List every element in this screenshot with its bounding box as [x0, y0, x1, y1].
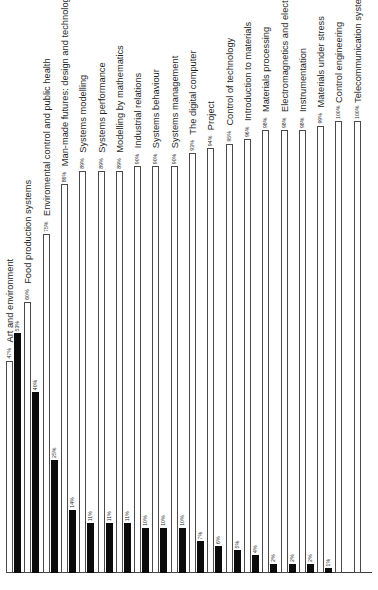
category-label: Industrial relations	[133, 73, 143, 148]
bar-black	[106, 523, 113, 573]
category-label: Art and environment	[5, 259, 15, 343]
bar-value-label-white: 89%	[98, 158, 105, 168]
bar-white	[24, 302, 31, 573]
category-label: The digital computer	[188, 50, 198, 134]
bar-value-label-black: 10%	[160, 515, 167, 525]
bar-value-label-black: 2%	[307, 554, 314, 562]
bar-black	[160, 528, 167, 573]
bar-white	[262, 130, 269, 573]
bar-value-label-white: 89%	[116, 158, 123, 168]
bar-value-label-white: 47%	[6, 348, 13, 358]
category-label: Systems management	[170, 56, 180, 149]
bar-white	[152, 166, 159, 573]
bar-value-label-white: 90%	[134, 154, 141, 164]
bar-value-label-white: 93%	[189, 140, 196, 150]
bar-value-label-white: 99%	[317, 113, 324, 123]
bar-value-label-white: 60%	[24, 289, 31, 299]
bar-value-label-black: 6%	[215, 536, 222, 544]
bar-white	[98, 171, 105, 573]
bar-white	[61, 184, 68, 573]
bar-black	[142, 528, 149, 573]
bar-value-label-white: 96%	[244, 127, 251, 137]
bar-black	[252, 555, 259, 573]
bar-black	[325, 568, 332, 573]
bar-white	[244, 139, 251, 573]
bar-white	[134, 166, 141, 573]
category-label: Control engineering	[334, 22, 344, 103]
bar-value-label-black: 11%	[124, 511, 131, 521]
bar-white	[335, 121, 342, 573]
bar-white	[116, 171, 123, 573]
bar-black	[234, 550, 241, 573]
bar-value-label-white: 75%	[43, 222, 50, 232]
bar-value-label-black: 4%	[252, 545, 259, 553]
bar-black	[289, 564, 296, 573]
bar-black	[179, 528, 186, 573]
category-label: Control of technology	[225, 38, 235, 126]
bar-black	[124, 523, 131, 573]
bar-black	[87, 523, 94, 573]
bar-white	[317, 126, 324, 573]
category-label: Food production systems	[23, 180, 33, 284]
bar-value-label-black: 14%	[69, 497, 76, 507]
category-label: Introduction to materials	[243, 22, 253, 121]
bar-value-label-white: 86%	[61, 172, 68, 182]
bar-white	[299, 130, 306, 573]
chart-plot-area: 47%53%Art and environment60%40%Food prod…	[0, 0, 378, 590]
bar-value-label-black: 25%	[51, 448, 58, 458]
bar-value-label-black: 7%	[197, 532, 204, 540]
bar-white	[79, 171, 86, 573]
bar-value-label-black: 2%	[289, 554, 296, 562]
bar-white	[189, 153, 196, 573]
category-label: Instrumentation	[298, 48, 308, 112]
bar-black	[270, 564, 277, 573]
bar-black	[307, 564, 314, 573]
bar-value-label-white: 90%	[171, 154, 178, 164]
category-label: Modelling by mathematics	[115, 45, 125, 152]
category-label: Project	[206, 101, 216, 130]
bar-white	[281, 130, 288, 573]
bar-black	[14, 333, 21, 573]
bar-black	[69, 510, 76, 573]
bar-value-label-white: 90%	[152, 154, 159, 164]
bar-white	[171, 166, 178, 573]
bar-value-label-black: 53%	[14, 321, 21, 331]
chart-figure: 47%53%Art and environment60%40%Food prod…	[0, 0, 378, 590]
bar-value-label-white: 100%	[335, 106, 342, 119]
category-label: Electromagnetics and electronics	[280, 0, 290, 112]
bar-value-label-black: 5%	[234, 541, 241, 549]
bar-value-label-black: 11%	[87, 511, 94, 521]
bar-white	[207, 148, 214, 573]
bar-value-label-white: 98%	[299, 118, 306, 128]
bar-black	[32, 392, 39, 573]
category-label: Telecommunication systems	[353, 0, 363, 103]
bar-value-label-white: 94%	[207, 136, 214, 146]
bar-black	[215, 546, 222, 573]
bar-value-label-white: 100%	[354, 106, 361, 119]
bar-value-label-black: 1%	[325, 559, 332, 567]
bar-value-label-black: 11%	[106, 511, 113, 521]
category-label: Enviromental control and public health	[42, 58, 52, 216]
bar-white	[354, 121, 361, 573]
bar-value-label-white: 98%	[262, 118, 269, 128]
category-label: Systems behaviour	[151, 69, 161, 148]
category-label: Materials processing	[261, 27, 271, 112]
bar-value-label-white: 95%	[226, 131, 233, 141]
bar-black	[51, 460, 58, 573]
bar-black	[197, 541, 204, 573]
bar-value-label-white: 98%	[281, 118, 288, 128]
bar-value-label-black: 2%	[270, 554, 277, 562]
category-label: Materials under stress	[316, 16, 326, 107]
bar-white	[43, 234, 50, 573]
category-label: Systems modelling	[78, 75, 88, 153]
bar-value-label-black: 10%	[179, 515, 186, 525]
bar-value-label-black: 40%	[32, 380, 39, 390]
bar-value-label-black: 10%	[142, 515, 149, 525]
bar-value-label-white: 89%	[79, 158, 86, 168]
bar-white	[226, 144, 233, 573]
category-label: Systems performance	[97, 62, 107, 152]
category-label: Man-made futures: design and technology	[60, 0, 70, 166]
bar-white	[6, 361, 13, 573]
